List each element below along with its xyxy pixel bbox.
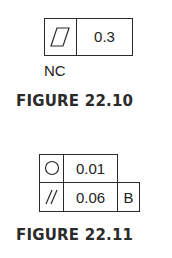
figure-caption: FIGURE 22.10 — [16, 92, 133, 110]
circularity-icon — [42, 158, 62, 178]
nc-modifier: NC — [44, 63, 74, 78]
figure-caption: FIGURE 22.11 — [16, 226, 133, 244]
flatness-icon — [49, 25, 71, 49]
tolerance-value: 0.01 — [64, 161, 117, 176]
datum-reference: B — [118, 190, 139, 205]
tolerance-value: 0.3 — [77, 29, 132, 44]
parallelism-icon — [42, 186, 62, 208]
tolerance-value: 0.06 — [64, 190, 117, 205]
